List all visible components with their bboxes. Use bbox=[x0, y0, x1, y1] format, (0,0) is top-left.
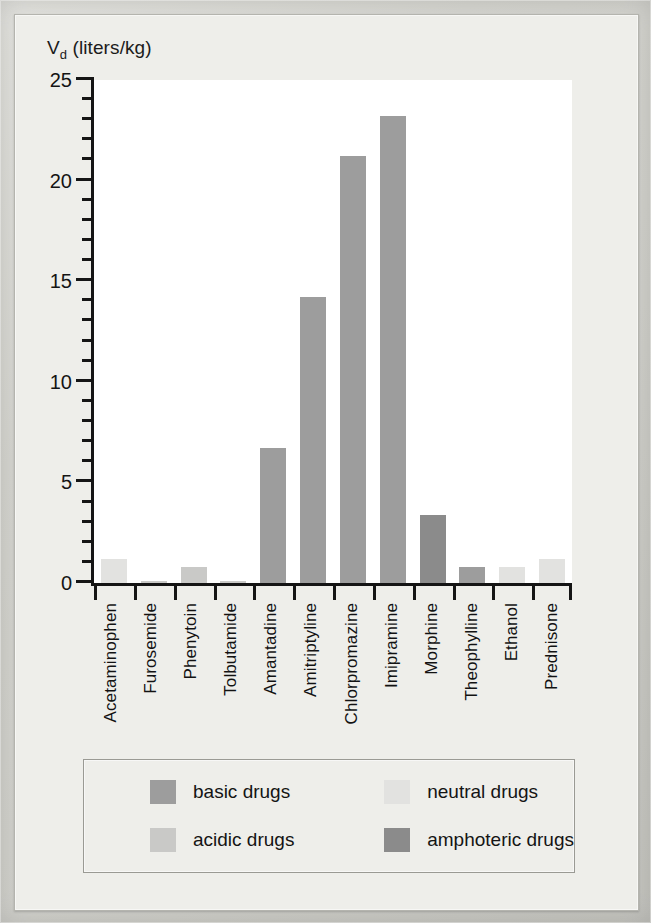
y-axis-title: Vd (liters/kg) bbox=[47, 37, 152, 62]
y-axis-major-tick bbox=[76, 77, 94, 80]
x-axis-label-slot: Morphine bbox=[412, 603, 452, 733]
x-axis-tick bbox=[373, 583, 376, 600]
bar-slot bbox=[373, 80, 413, 583]
figure-background: Vd (liters/kg) 0510152025 AcetaminophenF… bbox=[0, 0, 651, 923]
bar[interactable] bbox=[181, 567, 207, 583]
figure-panel: Vd (liters/kg) 0510152025 AcetaminophenF… bbox=[14, 14, 639, 911]
x-axis-tick-label: Imipramine bbox=[382, 603, 402, 688]
x-axis-tick bbox=[253, 583, 256, 600]
x-axis-tick bbox=[413, 583, 416, 600]
x-axis-tick-label: Ethanol bbox=[502, 603, 522, 661]
x-axis-tick-labels: AcetaminophenFurosemidePhenytoinTolbutam… bbox=[91, 603, 572, 733]
x-axis-label-slot: Amantadine bbox=[251, 603, 291, 733]
bar-slot bbox=[333, 80, 373, 583]
y-axis-minor-tick bbox=[82, 117, 94, 120]
bar[interactable] bbox=[260, 448, 286, 583]
y-axis-title-units: (liters/kg) bbox=[67, 37, 152, 58]
y-axis-minor-tick bbox=[82, 218, 94, 221]
y-axis-major-tick bbox=[76, 178, 94, 181]
legend-grid: basic drugsneutral drugsacidic drugsamph… bbox=[84, 760, 574, 872]
x-axis-label-slot: Theophylline bbox=[452, 603, 492, 733]
x-axis-tick-label: Tolbutamide bbox=[221, 603, 241, 696]
x-axis-label-slot: Acetaminophen bbox=[91, 603, 131, 733]
bar-slot bbox=[253, 80, 293, 583]
y-axis-minor-tick bbox=[82, 318, 94, 321]
y-axis-minor-tick bbox=[82, 157, 94, 160]
y-axis-minor-tick bbox=[82, 359, 94, 362]
bar[interactable] bbox=[141, 581, 167, 583]
y-axis-minor-tick bbox=[82, 419, 94, 422]
x-axis-tick bbox=[453, 583, 456, 600]
y-axis-title-main: V bbox=[47, 37, 60, 58]
x-axis-label-slot: Ethanol bbox=[492, 603, 532, 733]
x-axis-label-slot: Phenytoin bbox=[171, 603, 211, 733]
y-axis-major-tick bbox=[76, 479, 94, 482]
y-axis-minor-tick bbox=[82, 439, 94, 442]
legend-label: basic drugs bbox=[193, 781, 290, 803]
x-axis-tick bbox=[492, 583, 495, 600]
legend: basic drugsneutral drugsacidic drugsamph… bbox=[83, 759, 575, 873]
y-axis-minor-tick bbox=[82, 459, 94, 462]
bar[interactable] bbox=[340, 156, 366, 583]
legend-item-basic[interactable]: basic drugs bbox=[84, 780, 318, 804]
legend-swatch-icon bbox=[384, 780, 410, 804]
x-axis-label-slot: Chlorpromazine bbox=[331, 603, 371, 733]
bar[interactable] bbox=[539, 559, 565, 583]
bar-slot bbox=[452, 80, 492, 583]
x-axis-tick bbox=[174, 583, 177, 600]
x-axis-tick bbox=[214, 583, 217, 600]
x-axis-tick-label: Theophylline bbox=[462, 603, 482, 701]
y-axis-minor-tick bbox=[82, 399, 94, 402]
x-axis-tick-label: Furosemide bbox=[141, 603, 161, 694]
legend-swatch-icon bbox=[150, 828, 176, 852]
legend-swatch-icon bbox=[384, 828, 410, 852]
x-axis-tick-label: Prednisone bbox=[542, 603, 562, 690]
y-axis-major-tick bbox=[76, 278, 94, 281]
bar[interactable] bbox=[380, 116, 406, 583]
y-axis-minor-tick bbox=[82, 520, 94, 523]
bar-slot bbox=[293, 80, 333, 583]
bar[interactable] bbox=[499, 567, 525, 583]
y-axis-tick-label: 20 bbox=[50, 169, 72, 192]
x-axis-tick bbox=[569, 583, 572, 600]
bar-slot bbox=[532, 80, 572, 583]
legend-label: amphoteric drugs bbox=[427, 829, 574, 851]
bar-slot bbox=[94, 80, 134, 583]
bar[interactable] bbox=[459, 567, 485, 583]
plot-canvas: 0510152025 bbox=[91, 80, 572, 586]
y-axis-tick-label: 15 bbox=[50, 270, 72, 293]
x-axis-label-slot: Tolbutamide bbox=[211, 603, 251, 733]
bar[interactable] bbox=[300, 297, 326, 583]
legend-item-amphoteric[interactable]: amphoteric drugs bbox=[318, 828, 574, 852]
x-axis-label-slot: Imipramine bbox=[372, 603, 412, 733]
bar[interactable] bbox=[220, 581, 246, 583]
legend-item-acidic[interactable]: acidic drugs bbox=[84, 828, 318, 852]
legend-swatch-icon bbox=[150, 780, 176, 804]
x-axis-label-slot: Furosemide bbox=[131, 603, 171, 733]
bar-slot bbox=[174, 80, 214, 583]
x-axis-tick bbox=[293, 583, 296, 600]
x-axis-tick-label: Amitriptyline bbox=[301, 603, 321, 697]
y-axis-tick-label: 10 bbox=[50, 370, 72, 393]
y-axis-minor-tick bbox=[82, 238, 94, 241]
x-axis-tick bbox=[94, 583, 97, 600]
bar[interactable] bbox=[101, 559, 127, 583]
legend-label: acidic drugs bbox=[193, 829, 294, 851]
legend-label: neutral drugs bbox=[427, 781, 538, 803]
y-axis-minor-tick bbox=[82, 560, 94, 563]
legend-item-neutral[interactable]: neutral drugs bbox=[318, 780, 574, 804]
y-axis-minor-tick bbox=[82, 540, 94, 543]
x-axis-tick-label: Morphine bbox=[422, 603, 442, 675]
x-axis-label-slot: Prednisone bbox=[532, 603, 572, 733]
plot-area: Vd (liters/kg) 0510152025 AcetaminophenF… bbox=[15, 15, 638, 735]
x-axis-tick-label: Amantadine bbox=[261, 603, 281, 695]
x-axis-tick bbox=[134, 583, 137, 600]
bar-slot bbox=[492, 80, 532, 583]
bar-slot bbox=[213, 80, 253, 583]
y-axis-tick-label: 0 bbox=[61, 572, 72, 595]
bar-slot bbox=[134, 80, 174, 583]
bar[interactable] bbox=[420, 515, 446, 583]
y-axis-minor-tick bbox=[82, 198, 94, 201]
bar-slot bbox=[413, 80, 453, 583]
x-axis-tick bbox=[333, 583, 336, 600]
